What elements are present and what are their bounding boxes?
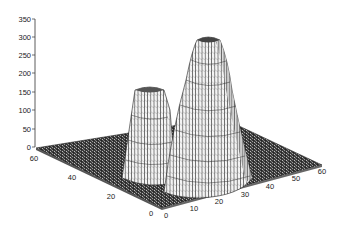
z-tick-label: 100 [18, 106, 31, 115]
z-tick-label: 200 [18, 69, 31, 78]
y-tick-label: 20 [107, 192, 115, 201]
z-axis: 350 300 250 200 150 100 50 0 [18, 15, 35, 152]
y-tick-label: 60 [30, 154, 38, 163]
x-tick-label: 10 [190, 204, 198, 213]
z-tick-label: 250 [18, 51, 31, 60]
x-tick-label: 60 [318, 167, 326, 176]
x-tick-label: 20 [215, 197, 223, 206]
z-tick-label: 0 [27, 143, 31, 152]
large-peak [164, 37, 252, 198]
z-tick-label: 50 [23, 125, 31, 134]
x-tick-label: 40 [266, 182, 274, 191]
z-tick-label: 300 [18, 33, 31, 42]
y-tick-label: 40 [68, 173, 76, 182]
surface-plot: 350 300 250 200 150 100 50 0 60 40 [0, 0, 342, 227]
z-tick-label: 150 [18, 88, 31, 97]
x-tick-label: 0 [164, 211, 168, 220]
z-tick-label: 350 [18, 15, 31, 24]
x-tick-label: 30 [241, 190, 249, 199]
x-tick-label: 50 [292, 174, 300, 183]
y-tick-label: 0 [149, 209, 153, 218]
